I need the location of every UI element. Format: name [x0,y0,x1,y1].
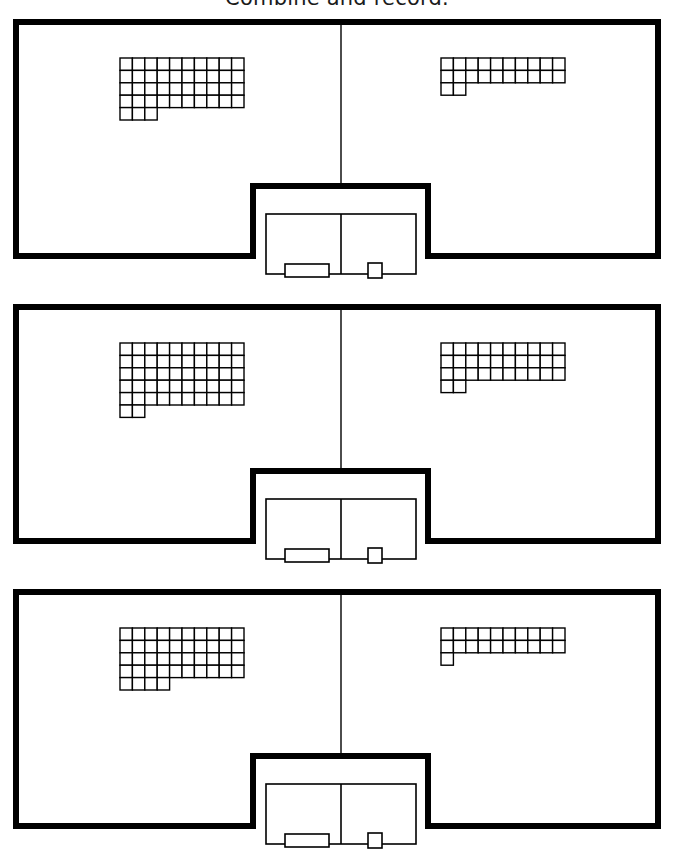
left-addend-blocks-unit-cell [232,665,244,677]
right-addend-blocks-unit-cell [553,628,565,640]
left-addend-blocks-unit-cell [120,368,132,380]
left-addend-blocks-unit-cell [219,368,231,380]
left-addend-blocks-unit-cell [219,393,231,405]
right-addend-blocks-unit-cell [478,343,490,355]
left-addend-blocks-unit-cell [132,640,144,652]
page-title: Combine and record. [0,0,674,10]
tens-label-box[interactable] [285,834,329,847]
left-addend-blocks-unit-cell [232,368,244,380]
left-addend-blocks-unit-cell [120,665,132,677]
left-addend-blocks-unit-cell [120,95,132,107]
right-addend-blocks-unit-cell [453,58,465,70]
left-addend-blocks-unit-cell [182,393,194,405]
left-addend-blocks-unit-cell [219,58,231,70]
left-addend-blocks-unit-cell [157,343,169,355]
left-addend-blocks-unit-cell [207,355,219,367]
left-addend-blocks-unit-cell [182,640,194,652]
left-addend-blocks [120,58,244,120]
left-addend-blocks-unit-cell [145,640,157,652]
left-addend-blocks-unit-cell [157,640,169,652]
right-addend-blocks-unit-cell [441,640,453,652]
left-addend-blocks-unit-cell [207,665,219,677]
ones-label-box[interactable] [368,833,382,848]
left-addend-blocks-unit-cell [170,343,182,355]
left-addend-blocks-unit-cell [207,393,219,405]
left-addend-blocks-unit-cell [157,628,169,640]
right-addend-blocks-unit-cell [540,343,552,355]
left-addend-blocks-unit-cell [219,628,231,640]
left-addend-blocks-unit-cell [120,380,132,392]
left-addend-blocks-unit-cell [232,70,244,82]
left-addend-blocks-unit-cell [157,58,169,70]
right-addend-blocks-unit-cell [478,368,490,380]
left-addend-blocks-unit-cell [170,70,182,82]
left-addend-blocks-unit-cell [194,58,206,70]
right-addend-blocks-unit-cell [553,368,565,380]
left-addend-blocks-unit-cell [170,393,182,405]
left-addend-blocks-unit-cell [232,95,244,107]
left-addend-blocks-unit-cell [182,58,194,70]
tens-label-box[interactable] [285,549,329,562]
right-addend-blocks-unit-cell [540,58,552,70]
left-addend-blocks-unit-cell [157,380,169,392]
left-addend-blocks-unit-cell [145,380,157,392]
left-addend-blocks-unit-cell [219,343,231,355]
left-addend-blocks-unit-cell [145,70,157,82]
left-addend-blocks-unit-cell [120,83,132,95]
left-addend-blocks-unit-cell [145,678,157,690]
left-addend-blocks-unit-cell [232,628,244,640]
right-addend-blocks-unit-cell [441,355,453,367]
left-addend-blocks-unit-cell [145,628,157,640]
left-addend-blocks-unit-cell [207,380,219,392]
right-addend-blocks-unit-cell [478,70,490,82]
left-addend-blocks-unit-cell [232,83,244,95]
right-addend-blocks-unit-cell [453,380,465,392]
left-addend-blocks-unit-cell [182,380,194,392]
right-addend-blocks-unit-cell [528,70,540,82]
left-addend-blocks-unit-cell [182,83,194,95]
left-addend-blocks-unit-cell [194,83,206,95]
left-addend-blocks-unit-cell [194,628,206,640]
right-addend-blocks-unit-cell [453,640,465,652]
right-addend-blocks-unit-cell [441,83,453,95]
right-addend-blocks-unit-cell [491,70,503,82]
problem-2-figure [0,303,674,565]
left-addend-blocks-unit-cell [132,108,144,120]
left-addend-blocks-unit-cell [207,653,219,665]
left-addend-blocks-unit-cell [145,393,157,405]
right-addend-blocks-unit-cell [528,343,540,355]
right-addend-blocks [441,58,565,95]
left-addend-blocks-unit-cell [207,640,219,652]
ones-label-box[interactable] [368,263,382,278]
right-addend-blocks-unit-cell [515,368,527,380]
left-addend-blocks-unit-cell [120,653,132,665]
left-addend-blocks-unit-cell [207,95,219,107]
right-addend-blocks-unit-cell [503,368,515,380]
left-addend-blocks-unit-cell [219,653,231,665]
left-addend-blocks-unit-cell [170,628,182,640]
left-addend-blocks-unit-cell [219,355,231,367]
left-addend-blocks-unit-cell [232,343,244,355]
right-addend-blocks-unit-cell [553,58,565,70]
problem-panel-1 [0,18,674,280]
right-addend-blocks-unit-cell [441,368,453,380]
ones-label-box[interactable] [368,548,382,563]
left-addend-blocks-unit-cell [145,58,157,70]
left-addend-blocks-unit-cell [219,665,231,677]
left-addend-blocks-unit-cell [145,355,157,367]
tens-label-box[interactable] [285,264,329,277]
left-addend-blocks-unit-cell [120,343,132,355]
left-addend-blocks-unit-cell [120,70,132,82]
left-addend-blocks-unit-cell [157,355,169,367]
right-addend-blocks-unit-cell [466,70,478,82]
left-addend-blocks-unit-cell [194,393,206,405]
left-addend-blocks-unit-cell [157,70,169,82]
left-addend-blocks-unit-cell [145,665,157,677]
left-addend-blocks-unit-cell [232,355,244,367]
left-addend-blocks-unit-cell [219,83,231,95]
right-addend-blocks-unit-cell [453,368,465,380]
right-addend-blocks-unit-cell [515,355,527,367]
problem-3-figure [0,588,674,850]
left-addend-blocks-unit-cell [145,368,157,380]
right-addend-blocks-unit-cell [540,368,552,380]
